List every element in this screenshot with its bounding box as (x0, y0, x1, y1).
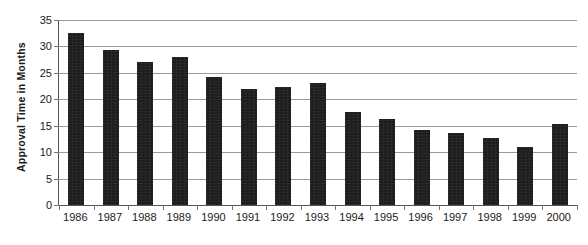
bar-1990 (206, 77, 222, 205)
y-axis-tick (54, 152, 59, 153)
bar-1986 (68, 33, 84, 205)
y-axis-tick-label: 35 (20, 14, 52, 26)
bar-1991 (241, 89, 257, 205)
x-axis-tick (439, 205, 440, 210)
x-axis-tick (370, 205, 371, 210)
x-axis-tick (59, 205, 60, 210)
bar-1993 (310, 83, 326, 205)
x-axis-tick (128, 205, 129, 210)
x-axis-tick (508, 205, 509, 210)
bar-1987 (103, 50, 119, 205)
y-axis-tick-label: 15 (20, 120, 52, 132)
y-axis-tick-label: 25 (20, 67, 52, 79)
x-axis-tick (335, 205, 336, 210)
bar-1994 (345, 112, 361, 205)
plot-area (58, 20, 577, 206)
bar-1997 (448, 133, 464, 205)
bar-2000 (552, 124, 568, 205)
y-axis-tick-label: 0 (20, 199, 52, 211)
x-axis-tick (232, 205, 233, 210)
y-axis-tick (54, 126, 59, 127)
y-axis-tick (54, 20, 59, 21)
y-axis-tick-labels: 05101520253035 (20, 20, 52, 205)
y-axis-tick (54, 46, 59, 47)
x-axis-tick (404, 205, 405, 210)
bar-1988 (137, 62, 153, 205)
y-axis-tick (54, 73, 59, 74)
y-axis-tick-label: 5 (20, 173, 52, 185)
x-axis-tick (163, 205, 164, 210)
x-axis-tick (301, 205, 302, 210)
y-axis-tick-label: 30 (20, 40, 52, 52)
bar-1999 (517, 147, 533, 205)
x-axis-tick (542, 205, 543, 210)
bar-1989 (172, 57, 188, 205)
x-axis-tick-label: 2000 (539, 211, 579, 223)
bar-1992 (275, 87, 291, 205)
bar-1995 (379, 119, 395, 205)
x-axis-tick (473, 205, 474, 210)
x-axis-tick (94, 205, 95, 210)
bar-chart: Approval Time in Months 05101520253035 1… (0, 0, 588, 245)
x-axis-tick-labels: 1986198719881989199019911992199319941995… (58, 211, 576, 231)
bar-1998 (483, 138, 499, 205)
bar-1996 (414, 130, 430, 205)
y-axis-tick (54, 99, 59, 100)
x-axis-tick (197, 205, 198, 210)
x-axis-tick (266, 205, 267, 210)
y-axis-tick-label: 10 (20, 146, 52, 158)
y-axis-tick-label: 20 (20, 93, 52, 105)
bars-group (59, 20, 577, 205)
y-axis-tick (54, 179, 59, 180)
x-axis-tick (577, 205, 578, 210)
